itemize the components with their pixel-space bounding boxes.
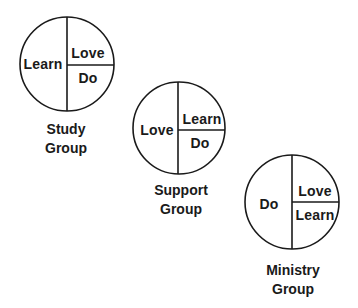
support-left-label: Love [140, 122, 173, 138]
ministry-left-label: Do [259, 196, 278, 212]
study-left-label: Learn [23, 56, 62, 72]
study-caption-line1: Study [47, 121, 86, 137]
ministry-caption-line1: Ministry [266, 262, 320, 278]
study-caption-line2: Group [45, 140, 87, 156]
ministry-bottom-right-label: Learn [295, 207, 334, 223]
support-top-right-label: Learn [182, 111, 221, 127]
study-bottom-right-label: Do [78, 70, 97, 86]
support-bottom-right-label: Do [190, 135, 209, 151]
study-group-diagram: Learn Love Do Study Group [20, 17, 114, 156]
group-diagram: Learn Love Do Study Group Love Learn Do … [0, 0, 358, 308]
support-caption-line1: Support [154, 182, 208, 198]
ministry-group-diagram: Do Love Learn Ministry Group [245, 155, 339, 297]
support-caption-line2: Group [160, 201, 202, 217]
ministry-top-right-label: Love [298, 183, 331, 199]
study-top-right-label: Love [71, 45, 104, 61]
support-group-diagram: Love Learn Do Support Group [133, 82, 225, 217]
ministry-caption-line2: Group [272, 281, 314, 297]
